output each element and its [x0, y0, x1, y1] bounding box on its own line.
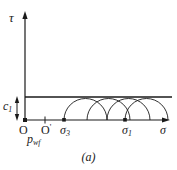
pore-pressure-subscript: wf [33, 138, 40, 147]
pore-pressure-label: pwf [27, 133, 40, 147]
mohr-circle-3 [107, 98, 150, 120]
sigma1-subscript: 1 [128, 129, 132, 138]
mohr-semicircles [64, 98, 168, 120]
mohr-circle-figure: τ c1 O pwf O' σ3 σ1 σ (a) [0, 0, 177, 170]
origin-prime-symbol: O [41, 123, 50, 137]
sigma3-label: σ3 [60, 124, 70, 138]
cohesion-dimension-arrow [15, 96, 19, 121]
tau-axis [22, 11, 27, 120]
mohr-circle-2 [87, 98, 130, 120]
sigma1-label: σ1 [122, 124, 132, 138]
origin-marker [23, 118, 27, 122]
cohesion-subscript: 1 [8, 105, 12, 114]
origin-prime-mark: ' [50, 122, 52, 132]
sigma-axis [25, 117, 170, 122]
cohesion-label: c1 [3, 100, 12, 114]
mohr-circle-4 [125, 98, 168, 120]
tau-axis-label: τ [9, 11, 14, 24]
origin-prime-label: O' [41, 123, 51, 136]
sigma-axis-label: σ [160, 124, 166, 136]
mohr-circle-1 [64, 98, 107, 120]
sigma3-subscript: 3 [66, 129, 70, 138]
figure-caption: (a) [0, 150, 177, 165]
